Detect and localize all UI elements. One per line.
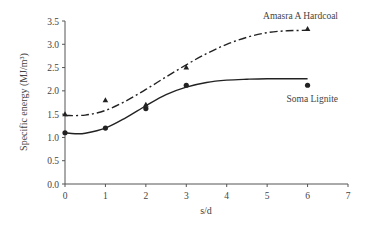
y-tick-label: 0.0 bbox=[47, 180, 59, 190]
x-tick-label: 3 bbox=[184, 191, 189, 201]
x-axis-label: s/d bbox=[200, 205, 212, 216]
y-axis-label: Specific energy (MJ/m³) bbox=[18, 53, 30, 151]
series-label-soma: Soma Lignite bbox=[287, 94, 338, 104]
y-tick-label: 0.5 bbox=[47, 156, 59, 166]
x-tick-label: 1 bbox=[103, 191, 108, 201]
x-tick-label: 5 bbox=[265, 191, 270, 201]
chart: 0.00.51.01.52.02.53.03.501234567 Amasra … bbox=[0, 0, 366, 225]
y-tick-label: 2.0 bbox=[47, 86, 59, 96]
x-tick-label: 7 bbox=[346, 191, 351, 201]
y-tick-label: 3.0 bbox=[47, 40, 59, 50]
x-tick-label: 0 bbox=[63, 191, 68, 201]
y-tick-label: 1.0 bbox=[47, 133, 59, 143]
data-markers bbox=[62, 26, 310, 135]
circle-marker bbox=[62, 130, 67, 135]
y-tick-label: 2.5 bbox=[47, 63, 59, 73]
y-tick-label: 3.5 bbox=[47, 17, 59, 27]
x-tick-label: 4 bbox=[224, 191, 229, 201]
series-label-amasra: Amasra A Hardcoal bbox=[263, 11, 338, 21]
circle-marker bbox=[184, 83, 189, 88]
triangle-marker bbox=[305, 26, 311, 31]
circle-marker bbox=[103, 126, 108, 131]
x-tick-label: 6 bbox=[305, 191, 310, 201]
circle-marker bbox=[305, 83, 310, 88]
x-tick-label: 2 bbox=[143, 191, 148, 201]
amasra-hardcoal-fit-line bbox=[65, 30, 308, 115]
fit-curves bbox=[65, 30, 308, 134]
axes: 0.00.51.01.52.02.53.03.501234567 bbox=[47, 17, 351, 202]
circle-marker bbox=[143, 106, 148, 111]
triangle-marker bbox=[103, 97, 109, 102]
y-tick-label: 1.5 bbox=[47, 110, 59, 120]
